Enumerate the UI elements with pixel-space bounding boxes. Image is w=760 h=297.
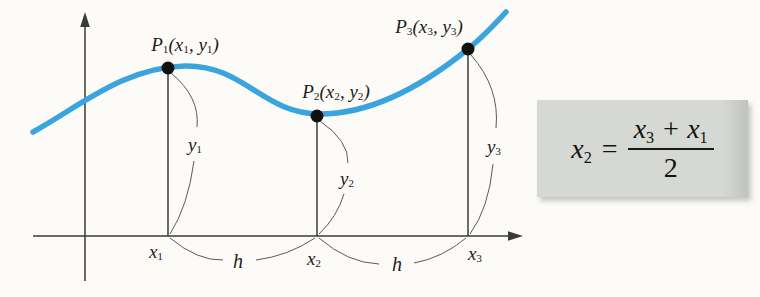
h2-leader-arc-right	[414, 238, 466, 263]
y-axis-arrowhead	[80, 12, 90, 27]
point-label-p3: P3(x3, y3)	[395, 17, 463, 36]
point-dot-p3	[462, 43, 475, 56]
h2-leader-arc-left	[319, 238, 379, 264]
point-dot-p2	[311, 110, 324, 123]
formula-box: x2 = x3 + x1 2	[537, 100, 748, 197]
point-dot-p1	[162, 62, 175, 75]
y3-leader-arc-upper	[471, 55, 496, 128]
simpsons-rule-figure: P1(x1, y1) P2(x2, y2) P3(x3, y3) y1 y2 y…	[0, 0, 760, 297]
y3-length-label: y3	[487, 137, 501, 156]
h-spacing-label-1: h	[233, 251, 243, 271]
x2-tick-label: x2	[307, 249, 321, 268]
fraction-denominator: 2	[664, 150, 678, 184]
y1-leader-arc-upper	[171, 73, 197, 127]
fraction-numerator: x3 + x1	[628, 113, 714, 150]
y3-leader-arc-lower	[470, 164, 493, 234]
h1-leader-arc-left	[170, 238, 223, 260]
y1-leader-arc-lower	[170, 161, 194, 234]
y2-leader-arc-upper	[320, 121, 348, 163]
x1-tick-label: x1	[149, 242, 163, 261]
x3-tick-label: x3	[468, 244, 482, 263]
x-axis-arrowhead	[508, 231, 523, 241]
y2-length-label: y2	[340, 169, 354, 188]
h-spacing-label-2: h	[392, 254, 402, 274]
equals-sign: =	[602, 133, 618, 165]
formula-lhs: x2	[571, 133, 592, 165]
y1-length-label: y1	[188, 135, 202, 154]
fraction: x3 + x1 2	[628, 113, 714, 184]
point-label-p2: P2(x2, y2)	[302, 82, 370, 101]
point-label-p1: P1(x1, y1)	[151, 35, 219, 54]
y2-leader-arc-lower	[319, 194, 344, 234]
